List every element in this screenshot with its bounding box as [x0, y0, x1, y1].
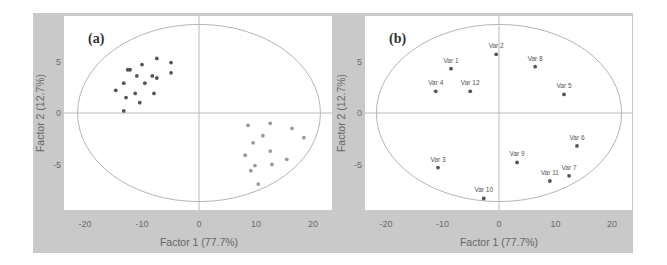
- data-point: [143, 81, 147, 85]
- data-point: [449, 67, 453, 71]
- data-point: [290, 127, 294, 131]
- x-tick-label: 20: [308, 219, 318, 229]
- y-axis-title: Factor 2 (12.7%): [335, 74, 347, 152]
- data-point: [533, 65, 537, 69]
- y-tick-label: 0: [56, 108, 61, 118]
- x-axis-title: Factor 1 (77.7%): [460, 236, 538, 248]
- data-point: [436, 166, 440, 170]
- data-point: [133, 92, 137, 96]
- y-tick-label: 5: [56, 57, 61, 67]
- data-point: [114, 88, 118, 92]
- x-tick-label: 10: [550, 219, 560, 229]
- point-label: Var 4: [428, 79, 443, 86]
- x-tick-label: 20: [607, 219, 617, 229]
- data-point: [302, 136, 306, 140]
- data-point: [249, 169, 253, 173]
- point-label: Var 10: [474, 186, 493, 193]
- x-tick-label: 10: [251, 219, 261, 229]
- data-point: [468, 89, 472, 93]
- data-point: [251, 141, 255, 145]
- data-point: [548, 179, 552, 183]
- data-point: [138, 101, 142, 105]
- data-point: [268, 121, 272, 125]
- data-point: [152, 92, 156, 96]
- data-point: [155, 76, 159, 80]
- point-label: Var 8: [528, 55, 543, 62]
- data-point: [575, 144, 579, 148]
- data-point: [567, 174, 571, 178]
- scatter-plot-b: (b)-20-100102050-5Factor 1 (77.7%)Factor…: [333, 13, 633, 253]
- data-point: [140, 63, 144, 67]
- point-label: Var 5: [556, 82, 571, 89]
- data-point: [515, 161, 519, 165]
- data-point: [122, 109, 126, 113]
- scatter-plot-a: (a)-20-100102050-5Factor 1 (77.7%)Factor…: [33, 13, 333, 253]
- y-tick-label: 0: [357, 108, 362, 118]
- data-point: [122, 81, 126, 85]
- point-label: Var 6: [569, 134, 584, 141]
- data-point: [155, 57, 159, 61]
- y-axis-title: Factor 2 (12.7%): [34, 74, 46, 152]
- data-point: [270, 163, 274, 167]
- x-tick-label: -20: [379, 219, 392, 229]
- data-point: [124, 96, 128, 100]
- data-point: [482, 197, 486, 201]
- point-label: Var 11: [541, 169, 560, 176]
- point-label: Var 3: [430, 156, 445, 163]
- data-point: [253, 164, 257, 168]
- data-point: [494, 52, 498, 56]
- panel-a: (a)-20-100102050-5Factor 1 (77.7%)Factor…: [33, 13, 333, 253]
- data-point: [261, 134, 265, 138]
- panel-b: (b)-20-100102050-5Factor 1 (77.7%)Factor…: [333, 13, 633, 253]
- panel-label: (a): [88, 31, 105, 47]
- y-tick-label: -5: [354, 160, 362, 170]
- data-point: [285, 157, 289, 161]
- x-tick-label: -10: [436, 219, 449, 229]
- x-tick-label: 0: [496, 219, 501, 229]
- x-tick-label: -10: [135, 219, 148, 229]
- panel-label: (b): [389, 31, 406, 47]
- data-point: [246, 123, 250, 127]
- x-tick-label: -20: [78, 219, 91, 229]
- data-point: [256, 182, 260, 186]
- x-axis-title: Factor 1 (77.7%): [160, 236, 238, 248]
- data-point: [434, 89, 438, 93]
- data-point: [169, 71, 173, 75]
- x-tick-label: 0: [196, 219, 201, 229]
- data-point: [243, 153, 247, 157]
- y-tick-label: 5: [357, 57, 362, 67]
- data-point: [128, 68, 132, 72]
- data-point: [150, 74, 154, 78]
- point-label: Var 9: [510, 150, 525, 157]
- y-tick-label: -5: [53, 160, 61, 170]
- data-point: [562, 93, 566, 97]
- data-point: [268, 149, 272, 153]
- point-label: Var 7: [562, 164, 577, 171]
- data-point: [169, 61, 173, 65]
- data-point: [135, 74, 139, 78]
- point-label: Var 2: [489, 42, 504, 49]
- point-label: Var 12: [461, 79, 480, 86]
- point-label: Var 1: [443, 57, 458, 64]
